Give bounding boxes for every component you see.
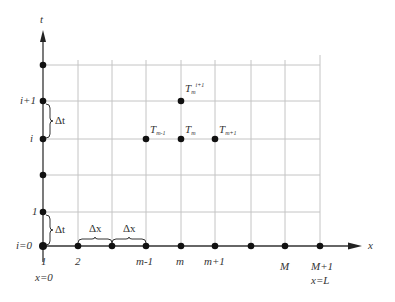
x-axis-label: x <box>368 240 373 251</box>
x-label-m-minus-1: m-1 <box>136 256 153 267</box>
t-axis-arrow-icon <box>40 30 46 42</box>
grid-diagram <box>0 0 395 302</box>
t-label-i-plus-1: i+1 <box>20 95 36 106</box>
t-label-i-0: i=0 <box>16 240 32 251</box>
dt-label-lower: Δt <box>55 224 65 235</box>
boundary-label-right: x=L <box>311 275 329 286</box>
x-label-m: m <box>176 256 184 267</box>
x-label-1: 1 <box>41 256 47 267</box>
dx-brace-1 <box>78 237 112 243</box>
node-label-t-m-next: Tmi+1 <box>185 83 204 94</box>
x-label-m-plus-1: m+1 <box>204 256 225 267</box>
node-label-t-m-plus-1: Tm+1 <box>219 124 237 135</box>
x-axis-arrow-icon <box>348 243 362 250</box>
x-label-M-plus-1: M+1 <box>311 261 333 272</box>
t-label-i: i <box>30 133 33 144</box>
t-axis-label: t <box>40 14 43 25</box>
boundary-label-left: x=0 <box>35 272 53 283</box>
node-label-t-m: Tm <box>185 124 195 135</box>
x-label-2: 2 <box>75 256 81 267</box>
dx-label-1: Δx <box>89 223 102 234</box>
dx-label-2: Δx <box>123 223 136 234</box>
dt-brace-lower <box>46 215 53 245</box>
dt-brace-upper <box>46 104 53 138</box>
dx-brace-2 <box>112 237 146 243</box>
node-label-t-m-minus-1: Tm-1 <box>150 124 165 135</box>
dt-label-upper: Δt <box>55 115 65 126</box>
t-label-1: 1 <box>32 206 38 217</box>
x-label-M: M <box>280 261 289 272</box>
